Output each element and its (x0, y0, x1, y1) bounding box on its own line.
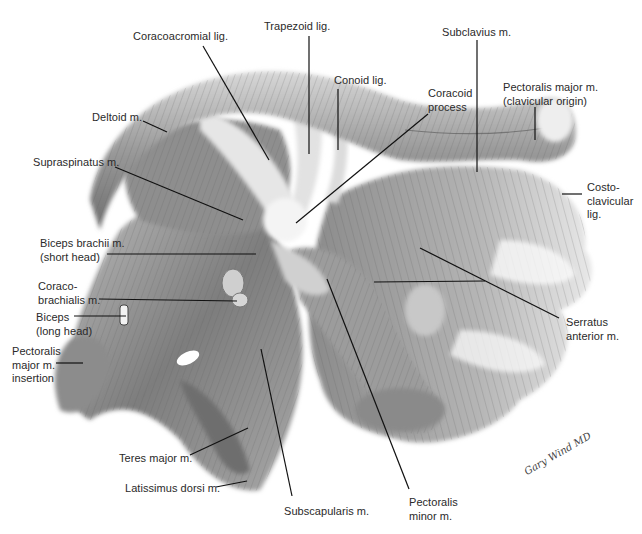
label-conoid-lig: Conoid lig. (334, 74, 387, 88)
label-line: Latissimus dorsi m. (125, 482, 220, 496)
label-line: (short head) (40, 251, 125, 265)
label-biceps-long-head: Biceps(long head) (36, 311, 92, 338)
anatomy-figure: Coracoacromial lig.Trapezoid lig.Subclav… (0, 0, 642, 534)
label-trapezoid-lig: Trapezoid lig. (264, 20, 330, 34)
label-pectoralis-minor-m: Pectoralisminor m. (409, 496, 458, 523)
label-biceps-brachii-short-head: Biceps brachii m.(short head) (40, 237, 125, 264)
label-line: Costo- (587, 181, 633, 195)
label-line: anterior m. (566, 330, 619, 344)
label-supraspinatus-m: Supraspinatus m. (33, 156, 119, 170)
label-subclavius-m: Subclavius m. (442, 26, 511, 40)
label-coracoacromial-lig: Coracoacromial lig. (133, 30, 228, 44)
label-line: Subclavius m. (442, 26, 511, 40)
label-line: major m. (12, 359, 61, 373)
label-coracoid-process: Coracoidprocess (428, 87, 472, 114)
label-serratus-anterior-m: Serratusanterior m. (566, 316, 619, 343)
label-line: lig. (587, 208, 633, 222)
label-line: Pectoralis (409, 496, 458, 510)
label-pectoralis-major-insertion: Pectoralismajor m.insertion (12, 345, 61, 386)
label-line: Serratus (566, 316, 619, 330)
label-latissimus-dorsi-m: Latissimus dorsi m. (125, 482, 220, 496)
label-line: minor m. (409, 510, 458, 524)
label-line: process (428, 101, 472, 115)
label-line: brachialis m. (38, 294, 100, 308)
label-line: Biceps (36, 311, 92, 325)
label-line: Pectoralis (12, 345, 61, 359)
label-line: insertion (12, 372, 61, 386)
label-line: Teres major m. (119, 452, 192, 466)
label-line: Trapezoid lig. (264, 20, 330, 34)
label-line: Supraspinatus m. (33, 156, 119, 170)
label-line: Deltoid m. (92, 111, 142, 125)
label-teres-major-m: Teres major m. (119, 452, 192, 466)
label-subscapularis-m: Subscapularis m. (284, 505, 369, 519)
label-line: Conoid lig. (334, 74, 387, 88)
label-line: Coraco- (38, 280, 100, 294)
label-line: Coracoid (428, 87, 472, 101)
label-coracobrachialis-m: Coraco-brachialis m. (38, 280, 100, 307)
label-costo-clavicular-lig: Costo-clavicularlig. (587, 181, 633, 222)
label-deltoid-m: Deltoid m. (92, 111, 142, 125)
label-pectoralis-major-clavicular: Pectoralis major m.(clavicular origin) (503, 81, 598, 108)
label-line: Coracoacromial lig. (133, 30, 228, 44)
label-line: (long head) (36, 325, 92, 339)
label-line: Pectoralis major m. (503, 81, 598, 95)
label-line: (clavicular origin) (503, 95, 598, 109)
label-line: clavicular (587, 195, 633, 209)
label-line: Subscapularis m. (284, 505, 369, 519)
label-line: Biceps brachii m. (40, 237, 125, 251)
